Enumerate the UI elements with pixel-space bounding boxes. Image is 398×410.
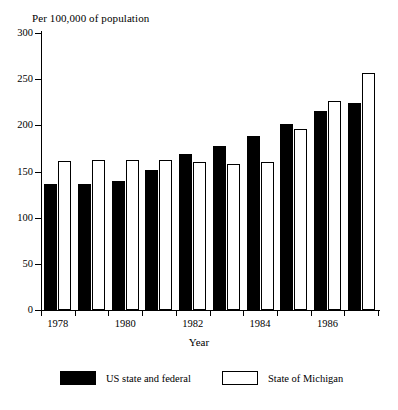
x-tick-mark bbox=[277, 311, 278, 316]
bar bbox=[179, 154, 192, 310]
legend-label: US state and federal bbox=[106, 373, 191, 384]
y-tick-label: 50 bbox=[3, 259, 33, 269]
bar bbox=[126, 160, 139, 310]
bar bbox=[294, 129, 307, 310]
y-tick-label-wrap: 250 bbox=[0, 74, 33, 84]
x-tick-label: 1982 bbox=[173, 318, 213, 330]
bar bbox=[280, 124, 293, 310]
chart-legend: US state and federal State of Michigan bbox=[0, 368, 398, 398]
bar bbox=[112, 181, 125, 310]
y-tick-label-wrap: 100 bbox=[0, 213, 33, 223]
bar bbox=[247, 136, 260, 310]
y-tick-label: 300 bbox=[3, 28, 33, 38]
y-tick-label: 100 bbox=[3, 213, 33, 223]
y-tick-label-wrap: 0 bbox=[0, 305, 33, 315]
y-tick-label: 200 bbox=[3, 120, 33, 130]
y-tick-label: 0 bbox=[3, 305, 33, 315]
bar bbox=[362, 73, 375, 310]
y-tick-label: 150 bbox=[3, 167, 33, 177]
bar bbox=[227, 164, 240, 310]
bar bbox=[145, 170, 158, 310]
legend-item-us-state-and-federal: US state and federal bbox=[60, 371, 191, 385]
y-tick-label-wrap: 200 bbox=[0, 120, 33, 130]
legend-swatch-filled-icon bbox=[60, 371, 96, 385]
legend-item-state-of-michigan: State of Michigan bbox=[222, 371, 343, 385]
bar bbox=[159, 160, 172, 311]
y-tick-label: 250 bbox=[3, 74, 33, 84]
x-tick-mark bbox=[41, 311, 42, 316]
x-tick-mark bbox=[142, 311, 143, 316]
legend-label: State of Michigan bbox=[268, 373, 343, 384]
x-tick-mark bbox=[344, 311, 345, 316]
x-tick-label: 1978 bbox=[38, 318, 78, 330]
x-tick-mark bbox=[75, 311, 76, 316]
bar bbox=[78, 184, 91, 310]
bar bbox=[348, 103, 361, 310]
bar bbox=[193, 162, 206, 310]
bar bbox=[44, 184, 57, 310]
bar bbox=[328, 101, 341, 310]
x-tick-label: 1986 bbox=[307, 318, 347, 330]
bar bbox=[261, 162, 274, 310]
x-tick-mark bbox=[210, 311, 211, 316]
bar bbox=[58, 161, 71, 310]
x-axis-title: Year bbox=[0, 336, 398, 348]
plot-area bbox=[41, 33, 378, 310]
y-axis-caption: Per 100,000 of population bbox=[32, 12, 149, 24]
x-tick-mark bbox=[176, 311, 177, 316]
x-tick-mark bbox=[108, 311, 109, 316]
x-tick-label: 1980 bbox=[105, 318, 145, 330]
x-tick-label: 1984 bbox=[240, 318, 280, 330]
bar bbox=[213, 146, 226, 310]
y-tick-label-wrap: 50 bbox=[0, 259, 33, 269]
bar bbox=[92, 160, 105, 310]
bar bbox=[314, 111, 327, 310]
x-tick-mark bbox=[311, 311, 312, 316]
x-tick-mark bbox=[243, 311, 244, 316]
legend-swatch-hollow-icon bbox=[222, 371, 258, 385]
bar-chart: Per 100,000 of population 05010015020025… bbox=[0, 0, 398, 410]
x-tick-mark bbox=[378, 311, 379, 316]
y-tick-label-wrap: 300 bbox=[0, 28, 33, 38]
y-tick-label-wrap: 150 bbox=[0, 167, 33, 177]
